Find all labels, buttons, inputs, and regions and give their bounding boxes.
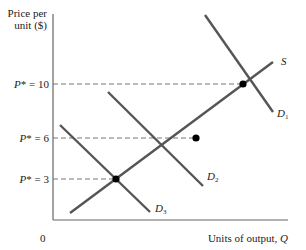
demand-label-d2: D2 [207,170,218,186]
origin-label: 0 [40,232,46,244]
price-tick-text: * = 3 [26,173,49,185]
equilibrium-point-d2 [192,134,199,141]
demand-letter: D [277,107,285,119]
supply-demand-diagram [0,0,306,250]
price-tick-text: * = 10 [21,78,49,90]
y-axis-label: Price per unit ($) [8,7,47,31]
demand-letter: D [155,202,163,214]
price-tick-10: P* = 10 [14,78,49,90]
x-axis-label-text: Units of output, [208,232,280,244]
price-tick-text: * = 6 [26,132,49,144]
demand-subscript: 3 [163,208,167,216]
demand-subscript: 1 [285,113,289,121]
y-axis-label-line2: unit ($) [8,19,47,31]
demand-curve-d1 [205,15,273,112]
demand-letter: D [207,170,215,182]
demand-label-d3: D3 [155,202,166,218]
supply-label: S [281,55,287,67]
x-axis-label: Units of output, Q [208,232,288,244]
demand-subscript: 2 [215,176,219,184]
price-tick-3: P* = 3 [20,173,49,185]
x-axis-variable: Q [280,232,288,244]
equilibrium-point-d3 [112,175,119,182]
price-symbol: P [14,78,21,90]
price-tick-6: P* = 6 [20,132,49,144]
demand-curve-d2 [108,92,203,186]
equilibrium-point-d1 [239,80,246,87]
y-axis-label-line1: Price per [8,7,47,19]
demand-label-d1: D1 [277,107,288,123]
